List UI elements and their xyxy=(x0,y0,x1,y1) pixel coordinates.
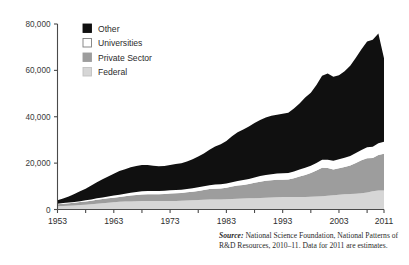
x-tick-label: 2011 xyxy=(375,216,394,226)
legend-label-private-sector: Private Sector xyxy=(98,53,152,63)
source-text: National Science Foundation, National Pa… xyxy=(219,231,398,250)
y-tick-label: 40,000 xyxy=(25,113,50,122)
y-tick-label: 60,000 xyxy=(25,66,50,75)
legend-label-other: Other xyxy=(98,24,120,34)
x-axis-ticks: 1953196319731983199320032011 xyxy=(48,210,394,226)
source-note: Source: National Science Foundation, Nat… xyxy=(219,231,405,251)
x-tick-label: 1953 xyxy=(48,216,67,226)
y-tick-label: 0 xyxy=(46,206,51,215)
y-tick-label: 80,000 xyxy=(25,20,50,29)
legend-swatch-universities xyxy=(83,39,92,48)
x-tick-label: 2003 xyxy=(329,216,348,226)
x-tick-label: 1963 xyxy=(104,216,123,226)
figure-container: 020,00040,00060,00080,000 19531963197319… xyxy=(0,0,409,265)
chart-legend: OtherUniversitiesPrivate SectorFederal xyxy=(83,24,152,78)
source-label: Source: xyxy=(219,231,243,240)
legend-label-federal: Federal xyxy=(98,67,127,77)
x-tick-label: 1983 xyxy=(217,216,236,226)
legend-swatch-private-sector xyxy=(83,53,92,62)
legend-label-universities: Universities xyxy=(98,38,142,48)
legend-swatch-federal xyxy=(83,68,92,77)
x-tick-label: 1973 xyxy=(161,216,180,226)
legend-swatch-other xyxy=(83,24,92,33)
y-tick-label: 20,000 xyxy=(25,159,50,168)
stacked-area-chart: 020,00040,00060,00080,000 19531963197319… xyxy=(0,0,409,265)
y-axis-ticks: 020,00040,00060,00080,000 xyxy=(25,20,57,215)
x-tick-label: 1993 xyxy=(273,216,292,226)
